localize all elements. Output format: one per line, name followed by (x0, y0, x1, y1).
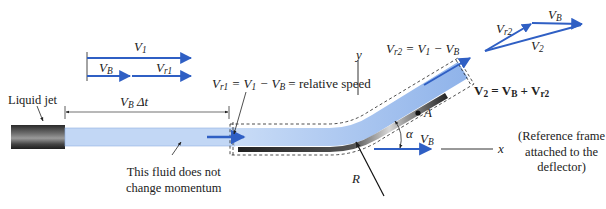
liquid-jet-label: Liquid jet (8, 93, 57, 109)
no-momentum-line1: This fluid does not (126, 165, 221, 181)
vb-dt-label: VB Δt (120, 95, 148, 108)
vb-dt-base: V (120, 94, 128, 109)
vr1-small-base: V (156, 60, 164, 75)
alpha-label: α (406, 127, 413, 140)
v1-base: V (134, 39, 142, 54)
vb-vector-sub: B (556, 13, 562, 23)
vr1-small-label: Vr1 (156, 61, 172, 74)
v2-sum-equation: V2 = VB + Vr2 (474, 84, 549, 97)
point-a-label: A (424, 106, 432, 119)
v2-vector-base: V (531, 38, 539, 53)
relative-speed-label: Vr1 = V1 − VB = relative speed (212, 77, 371, 90)
relative-speed-tail: = relative speed (285, 76, 371, 91)
vb-deflector-base: V (420, 131, 428, 146)
no-momentum-line2: change momentum (126, 181, 221, 197)
vb-vector-base: V (548, 7, 556, 22)
reference-line3: deflector) (518, 160, 605, 176)
reference-line1: (Reference frame (518, 129, 605, 145)
jet-deflector-diagram: Liquid jet VB Δt V1 VB Vr1 Vr1 = V1 − VB… (0, 0, 606, 209)
v1-sub: 1 (142, 45, 147, 55)
vb-dt-tail: Δt (134, 94, 149, 109)
vb-small-sub: B (107, 66, 113, 76)
vr1-small-sub: r1 (164, 66, 172, 76)
y-axis-label: y (356, 48, 362, 61)
vr2-equation: Vr2 = V1 − VB (386, 42, 459, 55)
vb-small-base: V (99, 60, 107, 75)
relative-speed-leader (234, 92, 246, 134)
reference-line2: attached to the (518, 145, 605, 161)
v2-vector-sub: 2 (539, 44, 544, 54)
vr2-vector-label: Vr2 (496, 22, 512, 35)
reference-frame-note: (Reference frameattached to thedeflector… (518, 129, 605, 176)
v1-label: V1 (134, 40, 147, 53)
vb-deflector-label: VB (420, 132, 434, 145)
v2-vector-label: V2 (531, 39, 544, 52)
vr2-vector-sub: r2 (504, 27, 512, 37)
vb-small-label: VB (99, 61, 113, 74)
x-axis-label: x (498, 142, 504, 155)
nozzle (11, 125, 65, 149)
vr2-vector-base: V (496, 21, 504, 36)
no-momentum-label: This fluid does notchange momentum (126, 165, 221, 196)
vb-deflector-sub: B (428, 137, 434, 147)
point-a (415, 110, 420, 115)
diagram-canvas (0, 0, 606, 209)
vb-vector-label: VB (548, 8, 562, 21)
radius-label: R (352, 172, 360, 185)
